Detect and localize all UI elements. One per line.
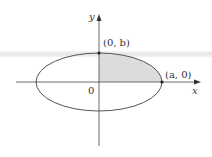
- top-point-label: (0, b): [103, 38, 130, 48]
- y-axis-arrow-icon: [97, 14, 102, 21]
- y-axis-label: y: [89, 12, 95, 22]
- point-right: [160, 80, 163, 83]
- x-axis-label: x: [192, 86, 198, 96]
- x-axis-arrow-icon: [194, 80, 201, 85]
- point-top: [97, 51, 100, 54]
- right-point-label: (a, 0): [165, 70, 191, 80]
- shaded-quadrant: [99, 53, 162, 82]
- origin-label: 0: [88, 86, 94, 96]
